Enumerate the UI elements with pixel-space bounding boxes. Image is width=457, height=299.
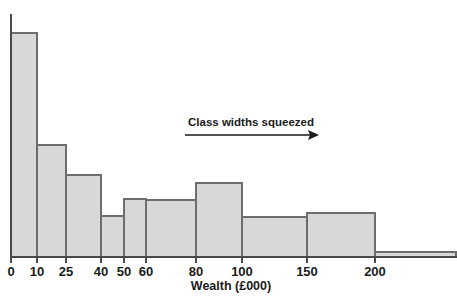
histogram-bar: [37, 145, 66, 257]
histogram-bar: [101, 216, 124, 257]
annotation-label: Class widths squeezed: [188, 116, 314, 128]
histogram-bar: [66, 175, 101, 257]
histogram-bar: [124, 199, 146, 257]
x-axis-tick-labels-group: 0102540506080100150200: [7, 264, 385, 279]
histogram-bar: [146, 200, 196, 257]
histogram-bar: [196, 183, 242, 257]
x-axis-title: Wealth (£000): [191, 279, 271, 293]
x-axis-tick-label: 60: [139, 264, 153, 279]
x-axis-tick-label: 0: [7, 264, 14, 279]
annotation-group: Class widths squeezed: [185, 116, 319, 140]
histogram-svg: 0102540506080100150200 Wealth (£000) Cla…: [0, 0, 457, 299]
histogram-bar: [307, 213, 375, 257]
x-axis-tick-label: 150: [296, 264, 318, 279]
histogram-bar: [375, 252, 456, 257]
x-axis-tick-label: 100: [231, 264, 253, 279]
bars-group: [11, 33, 456, 257]
x-axis-ticks-group: [11, 257, 375, 263]
histogram-bar: [11, 33, 37, 257]
x-axis-tick-label: 50: [117, 264, 131, 279]
x-axis-tick-label: 200: [364, 264, 386, 279]
histogram-figure: 0102540506080100150200 Wealth (£000) Cla…: [0, 0, 457, 299]
x-axis-tick-label: 10: [30, 264, 44, 279]
x-axis-tick-label: 80: [189, 264, 203, 279]
x-axis-tick-label: 25: [59, 264, 73, 279]
x-axis-tick-label: 40: [94, 264, 108, 279]
histogram-bar: [242, 217, 307, 257]
